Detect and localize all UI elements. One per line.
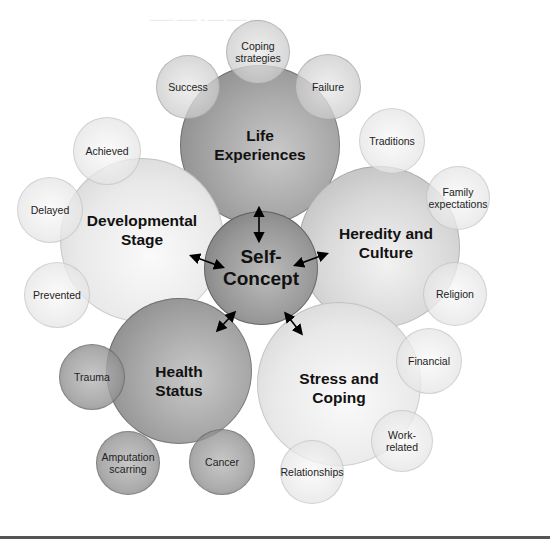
arrow-developmental-stage xyxy=(192,256,222,267)
bidirectional-arrows xyxy=(0,0,550,546)
arrow-health-status xyxy=(218,313,234,330)
arrow-heredity-culture xyxy=(296,254,326,265)
bottom-rule xyxy=(0,536,550,539)
arrow-stress-coping xyxy=(286,314,301,333)
